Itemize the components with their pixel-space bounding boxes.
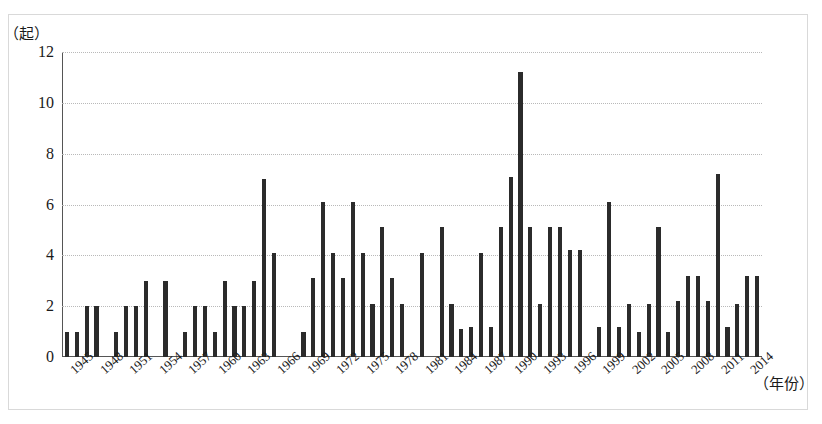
- bar: [528, 227, 532, 357]
- bar: [134, 306, 138, 357]
- bar: [686, 276, 690, 357]
- bar: [548, 227, 552, 357]
- bar: [65, 332, 69, 357]
- y-tick-label: 10: [38, 94, 54, 112]
- bar: [489, 327, 493, 358]
- bar: [716, 174, 720, 357]
- bar: [321, 202, 325, 357]
- bar: [351, 202, 355, 357]
- bar: [390, 278, 394, 357]
- bar: [301, 332, 305, 357]
- bar: [341, 278, 345, 357]
- y-axis-unit-label: （起）: [4, 22, 49, 43]
- bar-chart: （起） 024681012 19451948195119541957196019…: [0, 0, 822, 424]
- bar: [440, 227, 444, 357]
- x-axis-unit-label: （年份）: [754, 372, 814, 393]
- bar: [725, 327, 729, 358]
- plot-area: 024681012 194519481951195419571960196319…: [62, 52, 762, 357]
- bar: [311, 278, 315, 357]
- y-tick-label: 12: [38, 43, 54, 61]
- bar: [252, 281, 256, 357]
- bar: [578, 250, 582, 357]
- bar: [538, 304, 542, 357]
- bar: [213, 332, 217, 357]
- gridline: [62, 103, 762, 104]
- bar: [597, 327, 601, 358]
- bar: [331, 253, 335, 357]
- bar: [558, 227, 562, 357]
- bar: [637, 332, 641, 357]
- bar: [449, 304, 453, 357]
- bar: [607, 202, 611, 357]
- bar: [627, 304, 631, 357]
- bar: [193, 306, 197, 357]
- bar: [272, 253, 276, 357]
- bar: [183, 332, 187, 357]
- bar: [518, 72, 522, 357]
- bar: [242, 306, 246, 357]
- bar: [370, 304, 374, 357]
- gridline: [62, 205, 762, 206]
- bar: [400, 304, 404, 357]
- gridline: [62, 154, 762, 155]
- y-tick-label: 8: [46, 145, 54, 163]
- y-tick-label: 2: [46, 297, 54, 315]
- bar: [124, 306, 128, 357]
- bar: [144, 281, 148, 357]
- gridline: [62, 52, 762, 53]
- bar: [75, 332, 79, 357]
- bar: [361, 253, 365, 357]
- bar: [696, 276, 700, 357]
- bar: [479, 253, 483, 357]
- bar: [163, 281, 167, 357]
- bar: [568, 250, 572, 357]
- bar: [94, 306, 98, 357]
- bar: [656, 227, 660, 357]
- bar: [509, 177, 513, 357]
- bar: [223, 281, 227, 357]
- bar: [755, 276, 759, 357]
- y-tick-label: 0: [46, 348, 54, 366]
- bar: [499, 227, 503, 357]
- bar: [380, 227, 384, 357]
- bar: [459, 329, 463, 357]
- bar: [745, 276, 749, 357]
- bar: [420, 253, 424, 357]
- y-tick-label: 4: [46, 246, 54, 264]
- bar: [262, 179, 266, 357]
- y-tick-label: 6: [46, 196, 54, 214]
